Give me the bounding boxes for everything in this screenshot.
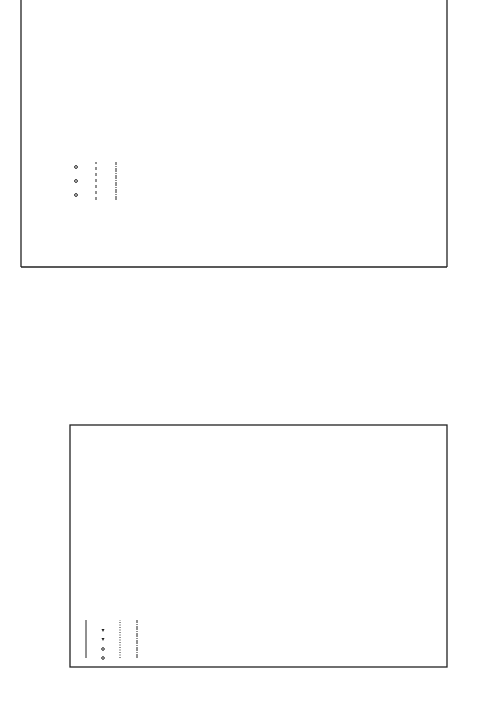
bottom-legend <box>86 620 137 659</box>
top-plot <box>21 0 447 267</box>
bottom-plot-frame <box>70 425 447 667</box>
figure-canvas <box>0 0 502 719</box>
top-legend <box>75 162 116 200</box>
bottom-plot <box>70 425 447 667</box>
